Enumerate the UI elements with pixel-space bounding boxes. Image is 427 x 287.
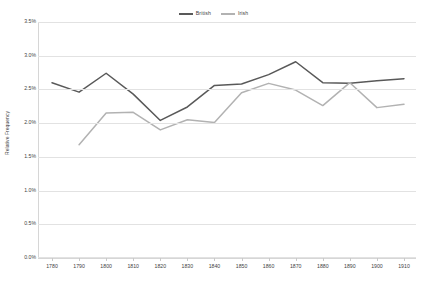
line-chart: BritishIrish Relative Frequency 0.0%0.5%… bbox=[0, 0, 427, 287]
x-tick-mark bbox=[52, 258, 53, 261]
legend-label: Irish bbox=[238, 11, 248, 16]
x-tick-label: 1880 bbox=[317, 264, 329, 269]
legend-label: British bbox=[196, 11, 211, 16]
gridline bbox=[38, 89, 416, 90]
x-tick-label: 1800 bbox=[100, 264, 112, 269]
y-tick-mark bbox=[34, 191, 36, 192]
x-tick-label: 1830 bbox=[182, 264, 194, 269]
legend-entry-british[interactable]: British bbox=[179, 11, 211, 16]
x-tick-mark bbox=[79, 258, 80, 261]
gridline bbox=[38, 157, 416, 158]
gridline bbox=[38, 56, 416, 57]
y-tick-label: 2.0% bbox=[2, 121, 36, 126]
x-axis-ticks: 1780179018001810182018301840185018601870… bbox=[38, 258, 416, 280]
x-tick-mark bbox=[404, 258, 405, 261]
x-tick-mark bbox=[350, 258, 351, 261]
gridline bbox=[38, 191, 416, 192]
x-tick-label: 1870 bbox=[290, 264, 302, 269]
plot-area bbox=[38, 22, 416, 258]
gridline bbox=[38, 224, 416, 225]
x-tick-label: 1840 bbox=[209, 264, 221, 269]
x-tick-mark bbox=[269, 258, 270, 261]
y-tick-label: 2.5% bbox=[2, 87, 36, 92]
x-tick-label: 1850 bbox=[236, 264, 248, 269]
y-tick-mark bbox=[34, 157, 36, 158]
x-tick-label: 1780 bbox=[46, 264, 58, 269]
x-tick-label: 1890 bbox=[344, 264, 356, 269]
x-tick-label: 1860 bbox=[263, 264, 275, 269]
gridline bbox=[38, 123, 416, 124]
y-tick-mark bbox=[34, 89, 36, 90]
y-tick-mark bbox=[34, 258, 36, 259]
y-tick-label: 1.5% bbox=[2, 154, 36, 159]
x-tick-label: 1910 bbox=[398, 264, 410, 269]
y-tick-mark bbox=[34, 22, 36, 23]
y-tick-label: 3.5% bbox=[2, 19, 36, 24]
x-tick-label: 1810 bbox=[127, 264, 139, 269]
y-tick-label: 0.0% bbox=[2, 255, 36, 260]
y-tick-label: 3.0% bbox=[2, 53, 36, 58]
x-tick-mark bbox=[377, 258, 378, 261]
x-tick-label: 1820 bbox=[155, 264, 167, 269]
series-lines bbox=[38, 22, 416, 258]
legend-swatch-icon bbox=[221, 13, 235, 15]
y-axis-ticks: 0.0%0.5%1.0%1.5%2.0%2.5%3.0%3.5% bbox=[0, 22, 36, 258]
legend-entry-irish[interactable]: Irish bbox=[221, 11, 248, 16]
x-tick-mark bbox=[323, 258, 324, 261]
x-tick-mark bbox=[160, 258, 161, 261]
x-tick-mark bbox=[214, 258, 215, 261]
x-tick-label: 1900 bbox=[371, 264, 383, 269]
y-tick-mark bbox=[34, 56, 36, 57]
series-line-irish bbox=[79, 83, 404, 145]
x-tick-label: 1790 bbox=[73, 264, 85, 269]
y-tick-mark bbox=[34, 123, 36, 124]
y-tick-label: 1.0% bbox=[2, 188, 36, 193]
x-tick-mark bbox=[242, 258, 243, 261]
x-tick-mark bbox=[296, 258, 297, 261]
chart-legend: BritishIrish bbox=[0, 7, 427, 21]
series-line-british bbox=[52, 62, 404, 121]
y-tick-mark bbox=[34, 224, 36, 225]
x-tick-mark bbox=[187, 258, 188, 261]
x-tick-mark bbox=[106, 258, 107, 261]
y-tick-label: 0.5% bbox=[2, 222, 36, 227]
gridline bbox=[38, 22, 416, 23]
legend-swatch-icon bbox=[179, 13, 193, 15]
x-tick-mark bbox=[133, 258, 134, 261]
